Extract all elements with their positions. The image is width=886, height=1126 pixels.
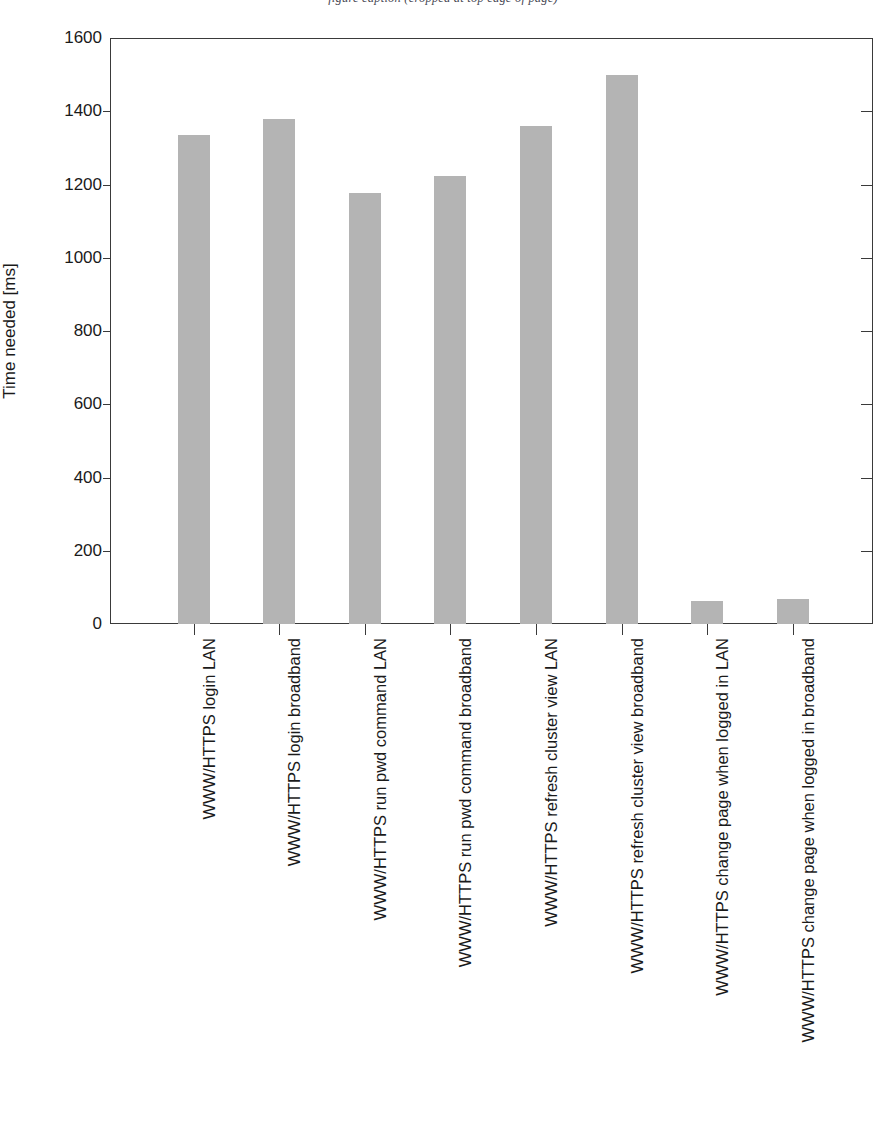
x-tick-label: WWW/HTTPS change page when logged in LAN — [714, 638, 731, 996]
x-tick-mark — [536, 624, 537, 635]
y-tick-mark — [103, 478, 111, 479]
y-tick-mark — [103, 185, 111, 186]
plot-frame — [110, 38, 873, 624]
y-tick-label: 600 — [0, 394, 102, 414]
x-tick-mark — [365, 624, 366, 635]
x-tick-label: WWW/HTTPS refresh cluster view broadband — [629, 638, 646, 974]
y-tick-mark — [861, 111, 872, 112]
y-tick-label: 0 — [0, 614, 102, 634]
y-tick-mark — [861, 404, 872, 405]
x-tick-label: WWW/HTTPS login broadband — [286, 638, 303, 866]
y-tick-mark — [861, 478, 872, 479]
y-tick-label: 800 — [0, 321, 102, 341]
y-tick-label: 200 — [0, 541, 102, 561]
x-tick-mark — [793, 624, 794, 635]
y-tick-mark — [103, 258, 111, 259]
bar — [777, 599, 809, 624]
bar — [520, 126, 552, 624]
y-tick-label: 1400 — [0, 101, 102, 121]
x-tick-label: WWW/HTTPS run pwd command broadband — [457, 638, 474, 967]
figure-container: figure caption (cropped at top edge of p… — [0, 0, 886, 1126]
x-tick-label: WWW/HTTPS change page when logged in bro… — [800, 638, 817, 1042]
y-tick-mark — [103, 331, 111, 332]
cropped-caption: figure caption (cropped at top edge of p… — [0, 0, 886, 7]
bar — [434, 176, 466, 624]
bar — [606, 75, 638, 624]
y-tick-mark — [103, 404, 111, 405]
x-tick-label: WWW/HTTPS run pwd command LAN — [372, 638, 389, 920]
y-tick-label: 400 — [0, 468, 102, 488]
y-tick-mark — [861, 258, 872, 259]
x-tick-label: WWW/HTTPS refresh cluster view LAN — [543, 638, 560, 927]
x-tick-mark — [450, 624, 451, 635]
y-tick-label: 1000 — [0, 248, 102, 268]
x-tick-mark — [194, 624, 195, 635]
x-tick-mark — [622, 624, 623, 635]
bar — [691, 601, 723, 624]
y-tick-mark — [103, 111, 111, 112]
y-tick-label: 1200 — [0, 175, 102, 195]
bar — [349, 193, 381, 624]
y-tick-mark — [861, 331, 872, 332]
y-tick-label: 1600 — [0, 28, 102, 48]
x-tick-mark — [707, 624, 708, 635]
x-tick-label: WWW/HTTPS login LAN — [201, 638, 218, 820]
x-tick-mark — [279, 624, 280, 635]
y-tick-mark — [861, 185, 872, 186]
bar — [263, 119, 295, 624]
y-tick-mark — [103, 551, 111, 552]
y-tick-mark — [861, 551, 872, 552]
bar — [178, 135, 210, 624]
